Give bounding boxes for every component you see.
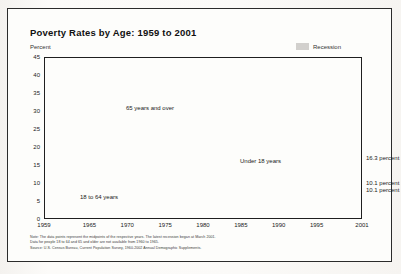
- scanned-chart-page: Poverty Rates by Age: 1959 to 2001 Perce…: [0, 0, 401, 274]
- x-tick-1959: 1959: [37, 222, 50, 228]
- y-tick-10: 10: [26, 180, 40, 186]
- series-label-under-18-years: Under 18 years: [240, 158, 281, 164]
- x-axis-tick-labels: 195919651970197519801985199019952001: [44, 222, 362, 234]
- x-tick-1970: 1970: [121, 222, 134, 228]
- y-axis-title: Percent: [30, 44, 51, 50]
- x-tick-1980: 1980: [196, 222, 209, 228]
- endpoint-label-2: 10.1 percent: [366, 187, 399, 193]
- endpoint-label-0: 16.3 percent: [366, 155, 399, 161]
- footnotes: Note: The data points represent the midp…: [30, 235, 360, 251]
- y-tick-5: 5: [26, 198, 40, 204]
- y-tick-30: 30: [26, 108, 40, 114]
- series-label-18-to-64-years: 18 to 64 years: [80, 194, 118, 200]
- y-tick-40: 40: [26, 72, 40, 78]
- y-tick-15: 15: [26, 162, 40, 168]
- series-label-65-years-and-over: 65 years and over: [126, 105, 174, 111]
- plot-area: 65 years and overUnder 18 years18 to 64 …: [44, 57, 362, 219]
- footnote-source: Source: U.S. Census Bureau, Current Popu…: [30, 246, 360, 251]
- x-tick-1985: 1985: [234, 222, 247, 228]
- y-tick-45: 45: [26, 54, 40, 60]
- x-tick-2001: 2001: [355, 222, 368, 228]
- x-tick-1975: 1975: [158, 222, 171, 228]
- y-tick-35: 35: [26, 90, 40, 96]
- y-tick-25: 25: [26, 126, 40, 132]
- x-tick-1990: 1990: [272, 222, 285, 228]
- legend-swatch-recession: [296, 43, 309, 50]
- legend-label-recession: Recession: [313, 44, 341, 50]
- endpoint-label-1: 10.1 percent: [366, 180, 399, 186]
- legend: Recession: [296, 43, 341, 50]
- y-tick-20: 20: [26, 144, 40, 150]
- y-axis-tick-labels: 051015202530354045: [26, 57, 40, 219]
- chart-title: Poverty Rates by Age: 1959 to 2001: [30, 27, 196, 38]
- x-tick-1995: 1995: [310, 222, 323, 228]
- x-tick-1965: 1965: [83, 222, 96, 228]
